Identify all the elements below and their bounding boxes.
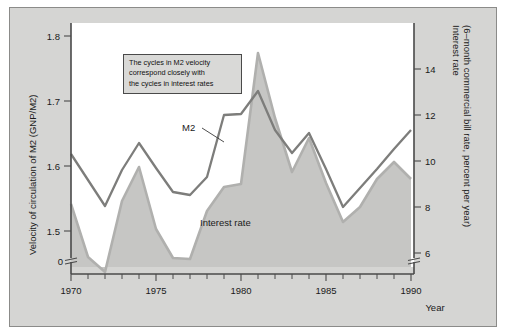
- left-ticklabel-1.5: 1.5: [47, 226, 60, 237]
- x-ticklabel-1970: 1970: [60, 285, 81, 296]
- right-ticklabel-8: 8: [425, 202, 430, 213]
- chart-plot: 1.8 1.7 1.6 1.5 0 14 12 10 8 6 1970 1975…: [10, 8, 498, 328]
- x-ticklabel-1990: 1990: [400, 285, 421, 296]
- left-axis-title: Velocity of circulation of M2 (GNP/M2): [27, 95, 38, 256]
- right-axis-title-line2: (6–month commercial bill rate, percent p…: [462, 25, 473, 227]
- left-ticklabel-1.7: 1.7: [47, 96, 60, 107]
- right-ticklabel-14: 14: [425, 64, 436, 75]
- right-axis-title-line1: Interest rate: [451, 25, 462, 76]
- x-ticklabel-1985: 1985: [315, 285, 336, 296]
- left-ticklabel-1.8: 1.8: [47, 31, 60, 42]
- x-ticklabel-1975: 1975: [145, 285, 166, 296]
- callout-note: The cycles in M2 velocity correspond clo…: [123, 54, 242, 94]
- right-ticklabel-12: 12: [425, 110, 436, 121]
- callout-note-line-1: The cycles in M2 velocity: [129, 58, 237, 68]
- interest-rate-series-label: Interest rate: [200, 217, 251, 228]
- right-ticklabel-10: 10: [425, 156, 436, 167]
- m2-series-label: M2: [182, 122, 195, 133]
- x-axis-title: Year: [425, 302, 444, 313]
- chart-figure: 1.8 1.7 1.6 1.5 0 14 12 10 8 6 1970 1975…: [9, 7, 497, 327]
- right-ticklabel-6: 6: [425, 248, 430, 259]
- x-axis-ticks: [71, 274, 411, 281]
- left-ticklabel-1.6: 1.6: [47, 161, 60, 172]
- callout-note-line-3: the cycles in interest rates: [129, 79, 237, 89]
- callout-note-line-2: correspond closely with: [129, 68, 237, 78]
- left-ticklabel-zero: 0: [58, 256, 63, 267]
- x-ticklabel-1980: 1980: [230, 285, 251, 296]
